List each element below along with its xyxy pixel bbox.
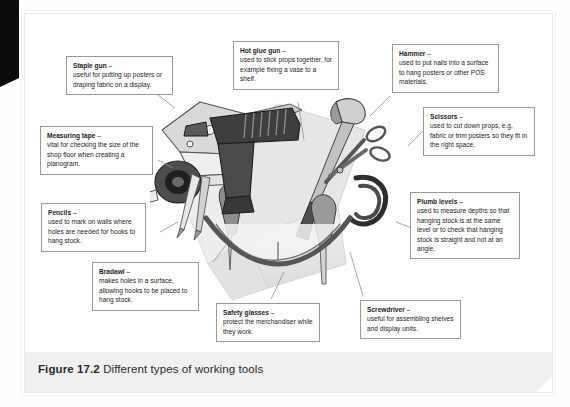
callout-title: Pencils	[48, 209, 71, 216]
callout-dash: –	[458, 113, 464, 120]
callout-bradawl[interactable]: Bradawl – makes holes in a surface, allo…	[92, 262, 199, 311]
callout-dash: –	[457, 198, 463, 205]
callout-title: Safety glasses	[223, 309, 269, 316]
callout-body: useful for putting up posters or draping…	[73, 70, 167, 89]
callout-dash: –	[95, 132, 101, 139]
figure-number: Figure 17.2	[38, 363, 100, 375]
callout-hot-glue-gun[interactable]: Hot glue gun – used to stick props toget…	[233, 41, 339, 90]
callout-title: Scissors	[430, 113, 458, 120]
figure-caption: Figure 17.2 Different types of working t…	[38, 363, 263, 375]
callout-body: vital for checking the size of the shop …	[47, 140, 147, 168]
page-edge-tab	[0, 0, 19, 78]
callout-body: used to stick props together, for exampl…	[240, 55, 333, 83]
callout-dash: –	[107, 62, 113, 69]
callout-title: Plumb levels	[417, 198, 457, 205]
callout-dash: –	[125, 268, 131, 275]
callout-plumb-levels[interactable]: Plumb levels – used to measure depths so…	[410, 192, 520, 259]
callout-measuring-tape[interactable]: Measuring tape – vital for checking the …	[40, 126, 153, 175]
callout-body: used to cut down props, e.g. fabric or t…	[430, 121, 529, 149]
callout-dash: –	[280, 47, 286, 54]
callout-pencils[interactable]: Pencils – used to mark on walls where ho…	[41, 203, 146, 252]
callout-title: Staple gun	[73, 62, 107, 69]
callout-safety-glasses[interactable]: Safety glasses – protect the merchandise…	[216, 303, 320, 342]
callout-body: useful for assembling shelves and displa…	[367, 314, 455, 333]
callout-body: used to mark on walls where holes are ne…	[48, 217, 140, 245]
figure-caption-text: Different types of working tools	[103, 363, 263, 375]
callout-body: used to put nails into a surface to hang…	[399, 58, 493, 86]
callout-title: Measuring tape	[47, 132, 95, 139]
callout-screwdriver[interactable]: Screwdriver – useful for assembling shel…	[360, 300, 461, 339]
callout-body: protect the merchandiser while they work…	[223, 317, 314, 336]
callout-title: Hot glue gun	[240, 47, 280, 54]
callout-dash: –	[269, 309, 275, 316]
callout-dash: –	[405, 306, 411, 313]
callout-title: Screwdriver	[367, 306, 405, 313]
callout-dash: –	[71, 209, 77, 216]
callout-hammer[interactable]: Hammer – used to put nails into a surfac…	[392, 44, 499, 93]
callout-body: makes holes in a surface, allowing hooks…	[99, 276, 193, 304]
callout-dash: –	[425, 50, 431, 57]
figure-page: Staple gun – useful for putting up poste…	[0, 0, 570, 407]
plumb-level-shape	[350, 177, 386, 224]
callout-body: used to measure depths so that hanging s…	[417, 206, 514, 253]
callout-scissors[interactable]: Scissors – used to cut down props, e.g. …	[423, 107, 535, 156]
callout-title: Bradawl	[99, 268, 125, 275]
callout-staple-gun[interactable]: Staple gun – useful for putting up poste…	[66, 56, 173, 95]
callout-title: Hammer	[399, 50, 425, 57]
